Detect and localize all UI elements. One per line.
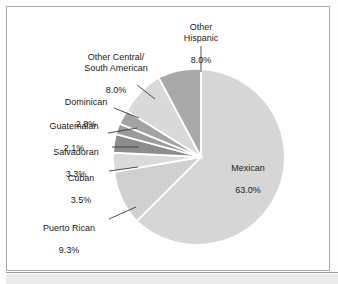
- slice-label-puerto-rican-value: 9.3%: [31, 245, 107, 256]
- slice-label-mexican: Mexican 63.0%: [218, 152, 278, 207]
- slice-label-dominican-name: Dominican: [55, 97, 117, 108]
- slice-label-other-central-south-american-name: Other Central/ South American: [66, 52, 166, 74]
- slice-label-salvadoran-name: Salvadoran: [43, 147, 109, 158]
- footer-strip: [6, 274, 338, 284]
- slice-label-mexican-value: 63.0%: [218, 185, 278, 196]
- slice-label-other-hispanic-name: Other Hispanic: [168, 22, 234, 44]
- slice-label-cuban-name: Cuban: [55, 173, 107, 184]
- slice-label-other-hispanic-value: 8.0%: [168, 55, 234, 66]
- figure-canvas: Other Hispanic 8.0% Other Central/ South…: [0, 0, 338, 284]
- slice-label-other-hispanic: Other Hispanic 8.0%: [168, 11, 234, 77]
- slice-label-puerto-rican: Puerto Rican 9.3%: [31, 212, 107, 267]
- slice-label-cuban-value: 3.5%: [55, 195, 107, 206]
- slice-label-guatemalan-name: Guatemalan: [40, 121, 108, 132]
- slice-label-puerto-rican-name: Puerto Rican: [31, 223, 107, 234]
- slice-label-mexican-name: Mexican: [218, 163, 278, 174]
- slice-label-cuban: Cuban 3.5%: [55, 162, 107, 217]
- footer-divider: [6, 272, 338, 273]
